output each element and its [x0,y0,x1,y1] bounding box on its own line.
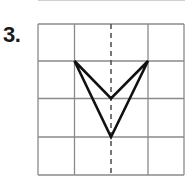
grid-figure [0,0,185,190]
